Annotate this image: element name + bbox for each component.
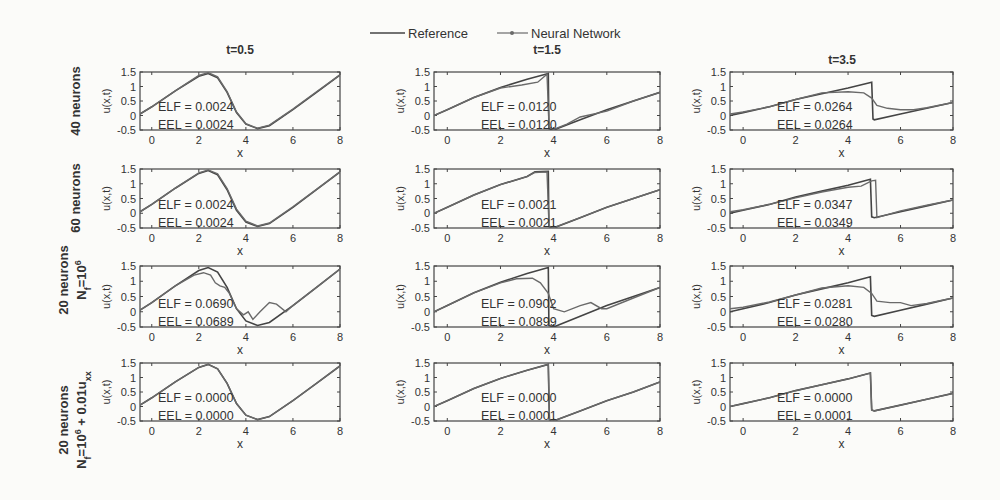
x-axis-label: x — [544, 437, 550, 451]
y-tick-label: 1.5 — [121, 357, 136, 369]
y-tick-label: 0.5 — [711, 386, 726, 398]
x-tick-label: 8 — [657, 331, 663, 343]
eel-annotation: EEL = 0.0001 — [777, 409, 853, 423]
y-tick-label: -0.5 — [707, 222, 726, 234]
elf-annotation: ELF = 0.0000 — [158, 391, 233, 405]
x-tick-label: 4 — [551, 425, 557, 437]
y-tick-label: 1.5 — [415, 357, 430, 369]
y-axis-label: u(x,t) — [690, 379, 702, 404]
x-tick-label: 2 — [497, 331, 503, 343]
x-axis-label: x — [237, 244, 243, 258]
x-axis-label: x — [839, 244, 845, 258]
y-tick-label: 0.5 — [711, 291, 726, 303]
x-tick-label: 2 — [196, 232, 202, 244]
x-axis-label: x — [237, 437, 243, 451]
x-tick-label: 2 — [196, 331, 202, 343]
elf-annotation: ELF = 0.0120 — [481, 100, 556, 114]
y-tick-label: 1.5 — [121, 163, 136, 175]
y-tick-label: 1 — [720, 275, 726, 287]
y-tick-label: 1.5 — [121, 260, 136, 272]
x-tick-label: 6 — [604, 425, 610, 437]
x-tick-label: 4 — [243, 331, 249, 343]
x-tick-label: 0 — [740, 232, 746, 244]
x-tick-label: 8 — [950, 134, 956, 146]
y-tick-label: 1 — [720, 372, 726, 384]
x-tick-label: 4 — [243, 425, 249, 437]
eel-annotation: EEL = 0.0024 — [158, 216, 234, 230]
row-label-1: 40 neurons — [68, 66, 83, 135]
x-tick-label: 6 — [290, 134, 296, 146]
y-axis-label: u(x,t) — [690, 186, 702, 211]
y-axis-label: u(x,t) — [690, 88, 702, 113]
x-tick-label: 2 — [793, 425, 799, 437]
x-tick-label: 0 — [740, 425, 746, 437]
row-label-3b: Nf=106 — [73, 260, 93, 299]
eel-annotation: EEL = 0.0349 — [777, 216, 853, 230]
x-tick-label: 8 — [337, 425, 343, 437]
y-tick-label: -0.5 — [411, 415, 430, 427]
y-tick-label: 0 — [130, 401, 136, 413]
y-tick-label: -0.5 — [707, 124, 726, 136]
y-tick-label: 1 — [130, 275, 136, 287]
x-tick-label: 6 — [897, 331, 903, 343]
y-tick-label: 1 — [424, 275, 430, 287]
x-tick-label: 6 — [897, 425, 903, 437]
y-tick-label: 0.5 — [711, 193, 726, 205]
elf-annotation: ELF = 0.0021 — [481, 198, 556, 212]
x-tick-label: 4 — [845, 331, 851, 343]
y-axis-label: u(x,t) — [394, 284, 406, 309]
panel-r2-c1: 02468-0.500.511.5u(x,t)xELF = 0.0024EEL … — [100, 163, 343, 258]
x-tick-label: 2 — [793, 232, 799, 244]
eel-annotation: EEL = 0.0689 — [158, 315, 234, 329]
x-tick-label: 8 — [337, 232, 343, 244]
y-axis-label: u(x,t) — [394, 379, 406, 404]
panel-r2-c3: 02468-0.500.511.5u(x,t)xELF = 0.0347EEL … — [690, 163, 956, 258]
y-tick-label: 1 — [424, 178, 430, 190]
y-tick-label: 0.5 — [121, 291, 136, 303]
y-tick-label: 1.5 — [711, 163, 726, 175]
y-tick-label: -0.5 — [707, 415, 726, 427]
y-tick-label: -0.5 — [411, 321, 430, 333]
y-tick-label: 1.5 — [415, 163, 430, 175]
x-tick-label: 6 — [290, 331, 296, 343]
y-tick-label: -0.5 — [411, 124, 430, 136]
y-tick-label: 0 — [130, 207, 136, 219]
x-tick-label: 8 — [950, 331, 956, 343]
x-tick-label: 0 — [444, 134, 450, 146]
elf-annotation: ELF = 0.0281 — [777, 297, 852, 311]
x-tick-label: 4 — [845, 134, 851, 146]
legend-reference-label: Reference — [408, 26, 468, 41]
x-tick-label: 4 — [243, 134, 249, 146]
y-tick-label: 0.5 — [121, 193, 136, 205]
y-tick-label: 1 — [130, 81, 136, 93]
x-tick-label: 6 — [290, 425, 296, 437]
panel-r4-c1: 02468-0.500.511.5u(x,t)xELF = 0.0000EEL … — [100, 357, 343, 451]
x-tick-label: 0 — [149, 232, 155, 244]
y-axis-label: u(x,t) — [690, 284, 702, 309]
column-title-3: t=3.5 — [828, 53, 856, 67]
panel-r3-c3: 02468-0.500.511.5u(x,t)xELF = 0.0281EEL … — [690, 260, 956, 357]
panel-r1-c1: 02468-0.500.511.5u(x,t)xELF = 0.0024EEL … — [100, 66, 343, 160]
panel-r1-c3: 02468-0.500.511.5u(x,t)xELF = 0.0264EEL … — [690, 66, 956, 160]
y-tick-label: 0 — [424, 207, 430, 219]
x-axis-label: x — [544, 343, 550, 357]
legend-network-label: Neural Network — [531, 26, 621, 41]
x-tick-label: 8 — [657, 425, 663, 437]
x-tick-label: 6 — [604, 232, 610, 244]
x-tick-label: 6 — [290, 232, 296, 244]
y-tick-label: 1.5 — [415, 66, 430, 78]
panel-r4-c2: 02468-0.500.511.5u(x,t)xELF = 0.0000EEL … — [394, 357, 663, 451]
x-tick-label: 0 — [149, 331, 155, 343]
y-axis-label: u(x,t) — [100, 284, 112, 309]
x-tick-label: 6 — [604, 134, 610, 146]
elf-annotation: ELF = 0.0264 — [777, 100, 852, 114]
y-tick-label: 1 — [424, 372, 430, 384]
y-tick-label: 0 — [720, 207, 726, 219]
panel-r3-c1: 02468-0.500.511.5u(x,t)xELF = 0.0690EEL … — [100, 260, 343, 357]
y-tick-label: 1.5 — [711, 260, 726, 272]
y-tick-label: 0.5 — [415, 386, 430, 398]
x-tick-label: 2 — [497, 232, 503, 244]
y-tick-label: 0.5 — [121, 95, 136, 107]
row-label-4b: Nf=106 + 0.01uxx — [73, 371, 93, 469]
panel-r3-c2: 02468-0.500.511.5u(x,t)xELF = 0.0902EEL … — [394, 260, 663, 357]
